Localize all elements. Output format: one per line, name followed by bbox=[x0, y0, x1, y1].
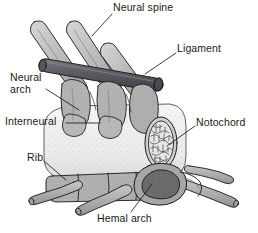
label-rib: Rib bbox=[27, 152, 43, 164]
fish-vertebra-anatomy-figure: Neural spine Ligament Neural arch Intern… bbox=[0, 0, 258, 233]
label-neural-arch-line1: Neural bbox=[10, 72, 42, 84]
label-ligament: Ligament bbox=[177, 43, 221, 55]
label-hemal-arch: Hemal arch bbox=[97, 213, 152, 225]
label-neural-spine: Neural spine bbox=[113, 2, 173, 14]
label-interneural: Interneural bbox=[5, 116, 56, 128]
label-notochord: Notochord bbox=[196, 117, 245, 129]
label-neural-arch-line2: arch bbox=[10, 84, 31, 96]
neural-spine-leader bbox=[92, 14, 112, 36]
ligament-leader bbox=[145, 53, 176, 74]
neural-arch-group bbox=[61, 80, 158, 139]
